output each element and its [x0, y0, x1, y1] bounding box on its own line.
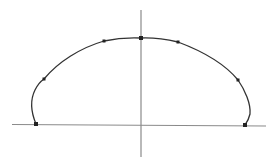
diagram-canvas	[0, 0, 278, 168]
apex-point	[139, 36, 143, 40]
background	[0, 0, 278, 168]
left-upper-point	[103, 40, 106, 43]
right-mid-point	[237, 79, 240, 82]
left-base-point	[34, 122, 38, 126]
right-upper-point	[177, 41, 180, 44]
left-mid-point	[43, 78, 46, 81]
right-base-point	[243, 123, 247, 127]
